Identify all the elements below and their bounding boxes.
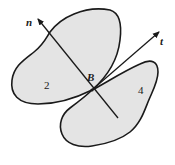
label-body-2: 2 <box>44 79 50 91</box>
label-t: t <box>160 35 164 47</box>
contact-diagram: n t B 2 4 <box>0 0 175 165</box>
contact-point-b <box>90 88 93 91</box>
label-body-4: 4 <box>138 84 144 96</box>
label-n: n <box>26 16 32 28</box>
label-b: B <box>86 71 94 83</box>
